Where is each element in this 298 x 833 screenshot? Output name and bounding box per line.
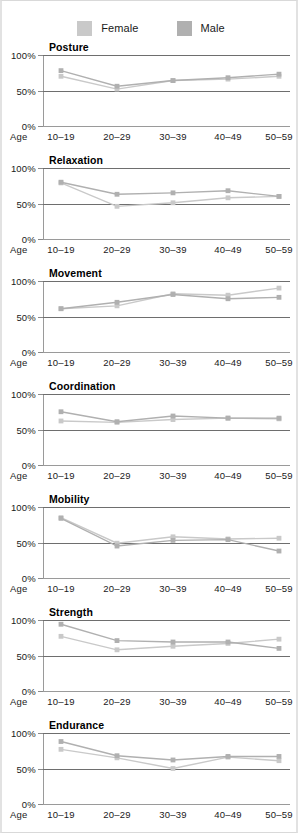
- x-axis-label: 10–19: [47, 244, 74, 255]
- y-axis-label: 0%: [22, 799, 36, 810]
- x-axis-name: Age: [10, 244, 28, 255]
- x-axis-label: 10–19: [47, 470, 74, 481]
- data-point-marker: [226, 537, 231, 542]
- data-point-marker: [115, 204, 120, 209]
- data-point-marker: [171, 766, 176, 771]
- legend-item-female: Female: [77, 21, 138, 36]
- x-axis-label: 40–49: [214, 809, 241, 820]
- x-axis-label: 30–39: [159, 583, 186, 594]
- series-line-female: [61, 749, 279, 768]
- x-axis-name: Age: [10, 131, 28, 142]
- chart-panel-endurance: Endurance100%50%0%10–1920–2930–3940–4950…: [2, 719, 298, 832]
- x-axis-label: 20–29: [103, 809, 130, 820]
- series-canvas: [43, 394, 290, 466]
- data-point-marker: [277, 72, 282, 77]
- x-axis-label: 30–39: [159, 357, 186, 368]
- y-axis-label: 50%: [16, 651, 36, 662]
- chart-panel-strength: Strength100%50%0%10–1920–2930–3940–4950–…: [2, 606, 298, 719]
- x-axis-labels: 10–1920–2930–3940–4950–59: [43, 244, 290, 260]
- data-point-marker: [171, 292, 176, 297]
- y-axis-label: 50%: [16, 764, 36, 775]
- x-axis-labels: 10–1920–2930–3940–4950–59: [43, 809, 290, 825]
- chart-title: Endurance: [49, 719, 104, 731]
- data-point-marker: [59, 306, 64, 311]
- data-point-marker: [59, 74, 64, 79]
- legend-item-male: Male: [177, 21, 225, 36]
- x-axis-label: 40–49: [214, 470, 241, 481]
- data-point-marker: [277, 549, 282, 554]
- series-line-male: [61, 742, 279, 760]
- data-point-marker: [115, 647, 120, 652]
- y-axis-label: 100%: [11, 502, 36, 513]
- series-canvas: [43, 168, 290, 240]
- x-axis-label: 40–49: [214, 696, 241, 707]
- chart-title: Movement: [49, 267, 102, 279]
- series-canvas: [43, 55, 290, 127]
- data-point-marker: [59, 622, 64, 627]
- x-axis-label: 30–39: [159, 470, 186, 481]
- data-point-marker: [226, 640, 231, 645]
- data-point-marker: [115, 192, 120, 197]
- data-point-marker: [277, 536, 282, 541]
- x-axis-label: 10–19: [47, 131, 74, 142]
- x-axis-label: 50–59: [265, 357, 292, 368]
- x-axis-label: 20–29: [103, 696, 130, 707]
- data-point-marker: [59, 747, 64, 752]
- data-point-marker: [115, 544, 120, 549]
- data-point-marker: [171, 640, 176, 645]
- plot-area: 100%50%0%10–1920–2930–3940–4950–59: [43, 620, 290, 692]
- x-axis-label: 50–59: [265, 244, 292, 255]
- data-point-marker: [171, 78, 176, 83]
- data-point-marker: [115, 753, 120, 758]
- y-axis-label: 0%: [22, 686, 36, 697]
- data-point-marker: [277, 754, 282, 759]
- series-line-male: [61, 182, 279, 196]
- data-point-marker: [171, 190, 176, 195]
- data-point-marker: [226, 75, 231, 80]
- chart-figure: Female Male Posture100%50%0%10–1920–2930…: [0, 0, 298, 833]
- data-point-marker: [277, 758, 282, 763]
- data-point-marker: [171, 414, 176, 419]
- data-point-marker: [277, 637, 282, 642]
- x-axis-label: 40–49: [214, 244, 241, 255]
- chart-panel-relaxation: Relaxation100%50%0%10–1920–2930–3940–495…: [2, 154, 298, 267]
- x-axis-labels: 10–1920–2930–3940–4950–59: [43, 470, 290, 486]
- data-point-marker: [59, 180, 64, 185]
- x-axis-label: 20–29: [103, 357, 130, 368]
- x-axis-label: 50–59: [265, 809, 292, 820]
- y-axis-label: 0%: [22, 121, 36, 132]
- y-axis-label: 100%: [11, 615, 36, 626]
- chart-panel-coordination: Coordination100%50%0%10–1920–2930–3940–4…: [2, 380, 298, 493]
- x-axis-labels: 10–1920–2930–3940–4950–59: [43, 131, 290, 147]
- data-point-marker: [171, 538, 176, 543]
- data-point-marker: [277, 295, 282, 300]
- x-axis-label: 30–39: [159, 244, 186, 255]
- x-axis-label: 20–29: [103, 470, 130, 481]
- chart-title: Coordination: [49, 380, 116, 392]
- data-point-marker: [226, 188, 231, 193]
- y-axis-label: 50%: [16, 199, 36, 210]
- data-point-marker: [115, 300, 120, 305]
- x-axis-label: 30–39: [159, 696, 186, 707]
- x-axis-label: 20–29: [103, 583, 130, 594]
- plot-area: 100%50%0%10–1920–2930–3940–4950–59: [43, 507, 290, 579]
- x-axis-label: 20–29: [103, 131, 130, 142]
- series-canvas: [43, 620, 290, 692]
- plot-area: 100%50%0%10–1920–2930–3940–4950–59: [43, 55, 290, 127]
- x-axis-name: Age: [10, 357, 28, 368]
- chart-title: Strength: [49, 606, 93, 618]
- y-axis-label: 50%: [16, 86, 36, 97]
- x-axis-label: 50–59: [265, 583, 292, 594]
- y-axis-label: 0%: [22, 234, 36, 245]
- y-axis-label: 50%: [16, 312, 36, 323]
- plot-area: 100%50%0%10–1920–2930–3940–4950–59: [43, 281, 290, 353]
- x-axis-label: 10–19: [47, 696, 74, 707]
- chart-legend: Female Male: [2, 15, 298, 41]
- series-canvas: [43, 733, 290, 805]
- data-point-marker: [59, 419, 64, 424]
- plot-area: 100%50%0%10–1920–2930–3940–4950–59: [43, 168, 290, 240]
- data-point-marker: [226, 296, 231, 301]
- series-line-male: [61, 518, 279, 551]
- data-point-marker: [277, 286, 282, 291]
- x-axis-label: 10–19: [47, 583, 74, 594]
